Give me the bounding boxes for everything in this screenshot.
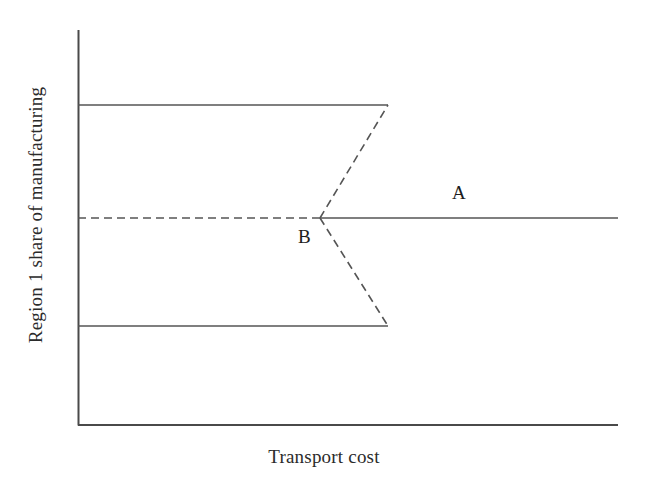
annotation-label-a: A	[452, 182, 466, 204]
bifurcation-diagram-figure: Region 1 share of manufacturing Transpor…	[0, 0, 648, 480]
annotation-label-b: B	[298, 226, 311, 248]
upper-unstable-branch-line	[320, 105, 388, 218]
plot-canvas	[0, 0, 648, 480]
y-axis-label-container: Region 1 share of manufacturing	[0, 0, 72, 430]
lower-unstable-branch-line	[320, 218, 388, 326]
y-axis-label: Region 1 share of manufacturing	[25, 87, 47, 343]
x-axis-label: Transport cost	[0, 446, 648, 468]
